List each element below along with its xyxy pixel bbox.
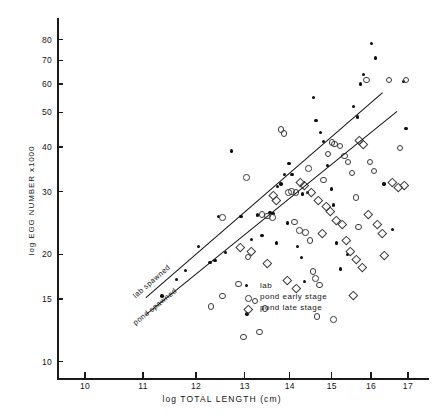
y-tick xyxy=(57,298,63,299)
data-point-open-circle xyxy=(355,224,362,231)
data-point-open-circle xyxy=(208,303,215,310)
y-axis-title: log EGG NUMBER x1000 xyxy=(27,126,36,276)
data-point-filled-circle xyxy=(296,245,299,248)
data-point-filled-circle xyxy=(250,238,253,241)
data-point-open-circle xyxy=(386,77,393,84)
data-point-filled-circle xyxy=(319,131,322,134)
data-point-filled-circle xyxy=(374,56,377,59)
data-point-filled-circle xyxy=(332,203,335,206)
x-tick-label: 13 xyxy=(232,381,258,391)
x-tick xyxy=(370,372,371,379)
data-point-open-circle xyxy=(310,268,317,275)
legend-marker-open-diamond xyxy=(244,305,253,314)
data-point-open-circle xyxy=(240,334,247,341)
y-tick xyxy=(57,83,63,84)
data-point-open-diamond xyxy=(342,236,351,245)
y-tick xyxy=(57,60,63,61)
x-axis-title: log TOTAL LENGTH (cm) xyxy=(57,394,387,404)
x-tick xyxy=(289,372,290,379)
data-point-open-circle xyxy=(325,151,332,158)
data-point-open-circle xyxy=(337,143,344,150)
y-tick-label: 80 xyxy=(8,35,52,45)
data-point-filled-circle xyxy=(335,241,338,244)
data-point-filled-circle xyxy=(330,187,333,190)
data-point-filled-circle xyxy=(312,96,315,99)
data-point-open-circle xyxy=(371,168,378,175)
x-tick-label: 11 xyxy=(130,381,156,391)
data-point-filled-circle xyxy=(382,182,385,185)
data-point-open-circle xyxy=(305,165,312,172)
data-point-filled-circle xyxy=(301,192,304,195)
x-tick-label: 17 xyxy=(395,381,421,391)
data-point-filled-circle xyxy=(391,228,394,231)
data-point-open-diamond xyxy=(263,259,272,268)
data-point-open-diamond xyxy=(358,263,367,272)
data-point-open-diamond xyxy=(373,219,382,228)
data-point-filled-circle xyxy=(300,256,303,259)
data-point-open-diamond xyxy=(364,210,373,219)
legend-label: pond early stage xyxy=(260,292,327,301)
legend-label: lab xyxy=(260,281,272,290)
x-tick-label: 10 xyxy=(72,381,98,391)
data-point-open-diamond xyxy=(379,251,388,260)
data-point-filled-circle xyxy=(260,234,263,237)
y-tick-label: 70 xyxy=(8,55,52,65)
data-point-open-diamond xyxy=(307,188,316,197)
x-tick xyxy=(195,372,196,379)
data-point-open-circle xyxy=(302,229,309,236)
data-point-open-circle xyxy=(330,316,337,323)
data-point-open-circle xyxy=(219,293,226,300)
data-point-open-circle xyxy=(235,281,242,288)
regression-line-lab xyxy=(145,92,382,298)
data-point-open-diamond xyxy=(378,229,387,238)
data-point-open-circle xyxy=(353,194,360,201)
y-tick-label: 10 xyxy=(8,357,52,367)
data-point-filled-circle xyxy=(359,82,362,85)
x-tick-label: 15 xyxy=(319,381,345,391)
y-tick xyxy=(57,112,63,113)
data-point-open-circle xyxy=(291,219,298,226)
legend-label: pond late stage xyxy=(260,303,322,312)
legend-marker-open-circle xyxy=(245,295,252,302)
x-tick-label: 14 xyxy=(277,381,303,391)
chart-legend: labpond early stagepond late stage xyxy=(245,281,365,314)
data-point-filled-circle xyxy=(339,267,342,270)
data-point-filled-circle xyxy=(314,119,317,122)
data-point-open-diamond xyxy=(338,219,347,228)
x-tick xyxy=(244,372,245,379)
x-tick xyxy=(407,372,408,379)
y-tick-label: 60 xyxy=(8,79,52,89)
data-point-open-diamond xyxy=(318,229,327,238)
x-tick-label: 12 xyxy=(183,381,209,391)
data-point-filled-circle xyxy=(275,241,278,244)
legend-entry: pond early stage xyxy=(245,292,365,303)
data-point-filled-circle xyxy=(279,182,282,185)
data-point-open-circle xyxy=(345,159,352,166)
data-point-filled-circle xyxy=(404,127,407,130)
y-tick xyxy=(57,146,63,147)
data-point-open-diamond xyxy=(272,196,281,205)
data-point-filled-circle xyxy=(286,221,289,224)
x-tick xyxy=(142,372,143,379)
data-point-open-circle xyxy=(219,214,226,221)
data-point-open-circle xyxy=(363,77,370,84)
data-point-open-circle xyxy=(269,214,276,221)
legend-entry: lab xyxy=(245,281,365,292)
y-tick xyxy=(57,254,63,255)
data-point-filled-circle xyxy=(362,73,365,76)
y-tick xyxy=(57,39,63,40)
data-point-filled-circle xyxy=(184,269,187,272)
data-point-open-circle xyxy=(256,329,263,336)
data-point-open-circle xyxy=(367,159,374,166)
data-point-open-diamond xyxy=(235,243,244,252)
data-point-open-circle xyxy=(403,77,410,84)
data-point-filled-circle xyxy=(230,149,233,152)
y-tick xyxy=(57,361,63,362)
data-point-open-diamond xyxy=(314,196,323,205)
x-tick xyxy=(84,372,85,379)
data-point-filled-circle xyxy=(287,162,290,165)
data-point-open-circle xyxy=(281,130,288,137)
data-point-open-circle xyxy=(320,177,327,184)
y-tick xyxy=(57,191,63,192)
data-point-filled-circle xyxy=(370,42,373,45)
